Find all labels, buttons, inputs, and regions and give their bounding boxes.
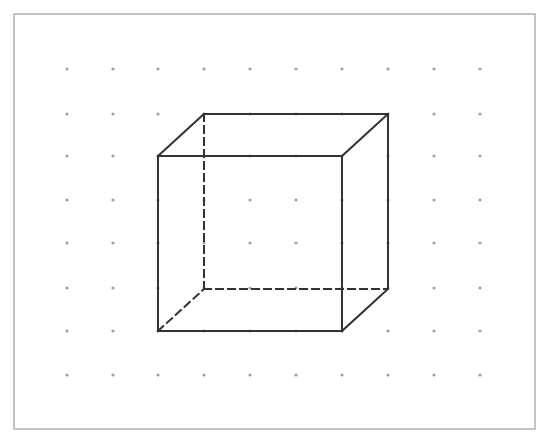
grid-dot	[432, 373, 435, 376]
grid-dot	[386, 373, 389, 376]
grid-dot	[478, 198, 481, 201]
grid-dot	[248, 373, 251, 376]
grid-dot	[111, 329, 114, 332]
grid-dot	[111, 154, 114, 157]
grid-dot	[202, 373, 205, 376]
grid-dot	[432, 241, 435, 244]
grid-dot	[65, 373, 68, 376]
grid-dot	[65, 241, 68, 244]
grid-dot	[156, 112, 159, 115]
grid-dot	[478, 154, 481, 157]
grid-dot	[111, 286, 114, 289]
grid-dot	[294, 67, 297, 70]
grid-dot	[65, 154, 68, 157]
grid-dot	[248, 241, 251, 244]
grid-dot	[432, 286, 435, 289]
grid-dot	[478, 67, 481, 70]
grid-dot	[202, 67, 205, 70]
diagram-frame	[14, 14, 535, 429]
grid-dot	[111, 198, 114, 201]
grid-dot	[432, 198, 435, 201]
grid-dot	[65, 67, 68, 70]
grid-dot	[65, 112, 68, 115]
grid-dot	[248, 67, 251, 70]
grid-dot	[432, 112, 435, 115]
grid-dot	[432, 154, 435, 157]
grid-dot	[65, 329, 68, 332]
grid-dot	[294, 198, 297, 201]
grid-dot	[340, 67, 343, 70]
grid-dot	[432, 67, 435, 70]
grid-dot	[294, 241, 297, 244]
grid-dot	[156, 67, 159, 70]
grid-dot	[478, 112, 481, 115]
grid-dot	[478, 241, 481, 244]
grid-dot	[386, 329, 389, 332]
grid-dot	[111, 241, 114, 244]
grid-dot	[248, 198, 251, 201]
grid-dot	[65, 286, 68, 289]
grid-dot	[478, 373, 481, 376]
grid-dot	[386, 67, 389, 70]
grid-dot	[478, 329, 481, 332]
grid-dot	[111, 112, 114, 115]
grid-dot	[432, 329, 435, 332]
grid-dot	[111, 67, 114, 70]
grid-dot	[340, 373, 343, 376]
grid-dot	[294, 373, 297, 376]
grid-dot	[478, 286, 481, 289]
cube-diagram	[0, 0, 543, 444]
grid-dot	[65, 198, 68, 201]
grid-dot	[111, 373, 114, 376]
grid-dot	[156, 373, 159, 376]
